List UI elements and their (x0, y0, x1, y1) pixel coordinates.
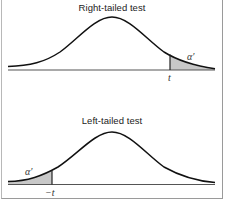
right-critical-label: t (168, 72, 171, 83)
left-critical-label: −t (45, 187, 55, 198)
left-tailed-density-curve (8, 132, 215, 183)
right-tailed-density-curve (8, 17, 215, 69)
left-area-label: α′ (25, 166, 32, 177)
right-area-label: α′ (187, 51, 194, 62)
distribution-diagram (0, 0, 234, 207)
left-tailed-title: Left-tailed test (0, 115, 224, 126)
